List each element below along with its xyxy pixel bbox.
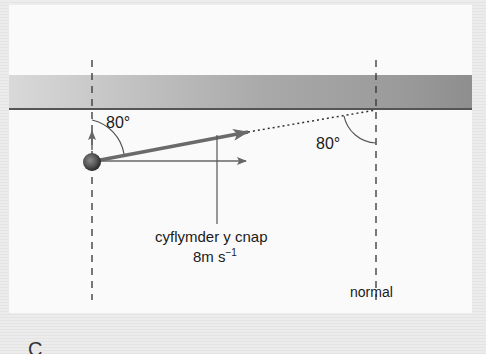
velocity-label-line1: cyflymder y cnap (155, 228, 268, 245)
velocity-extension-dotted (248, 110, 376, 132)
ball-icon (83, 153, 101, 171)
angle-label-left: 80° (106, 114, 130, 132)
wall-band (9, 75, 472, 108)
velocity-arrow (95, 132, 248, 161)
velocity-exponent: −1 (226, 247, 237, 258)
normal-label: normal (350, 284, 393, 300)
velocity-value: 8m s (193, 248, 226, 265)
diagram-canvas (0, 0, 486, 354)
angle-label-right: 80° (316, 135, 340, 153)
velocity-label-line2: 8m s−1 (193, 247, 237, 265)
angle-arc-right (344, 116, 376, 143)
cut-off-caption: C (28, 338, 42, 354)
